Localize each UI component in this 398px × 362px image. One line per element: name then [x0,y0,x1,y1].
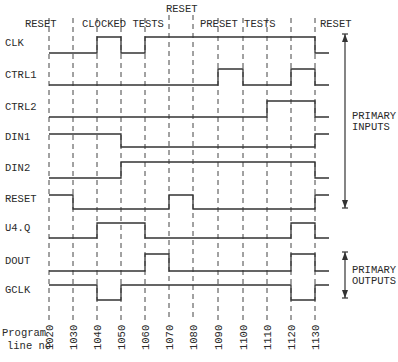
signal-label-gclk: GCLK [5,284,31,296]
waveform-din1 [49,134,329,147]
program-line-caption: Program [2,327,46,339]
program-line-number: 1110 [262,325,274,350]
signal-label-reset: RESET [5,193,37,205]
signal-label-ctrl1: CTRL1 [5,69,37,81]
waveform-ctrl1 [49,69,329,85]
waveform-reset [49,195,329,209]
arrow-up-icon [342,252,348,260]
program-line-number: 1130 [310,325,322,350]
signal-label-din1: DIN1 [5,131,30,143]
section-label: RESET [166,3,198,15]
signal-label-u4-q: U4.Q [5,222,30,234]
waveform-clk [49,37,329,53]
program-line-gridlines [49,15,315,320]
program-line-number: 1090 [213,325,225,350]
program-line-number: 1060 [140,325,152,350]
program-line-number: 1050 [116,325,128,350]
timing-diagram: RESETCLOCKED TESTSRESETPRESET TESTSRESET… [0,0,398,362]
signal-label-din2: DIN2 [5,162,30,174]
section-labels: RESETCLOCKED TESTSRESETPRESET TESTSRESET [25,3,352,30]
group-label: OUTPUTS [352,275,396,287]
section-label: CLOCKED TESTS [82,18,164,30]
arrow-up-icon [342,34,348,42]
program-line-number: 1100 [238,325,250,350]
waveform-gclk [49,285,329,300]
arrow-down-icon [342,200,348,208]
signal-labels: CLKCTRL1CTRL2DIN1DIN2RESETU4.QDOUTGCLK [5,37,37,296]
program-line-number: 1020 [44,325,56,350]
signal-label-dout: DOUT [5,255,30,267]
program-line-numbers: Program line no 102010301040105010601070… [2,325,322,352]
waveform-u4-q [49,223,329,238]
program-line-number: 1040 [92,325,104,350]
program-line-number: 1120 [286,325,298,350]
waveforms [49,37,329,300]
section-label: RESET [25,18,57,30]
section-label: RESET [320,18,352,30]
program-line-number: 1070 [164,325,176,350]
waveform-dout [49,254,329,271]
program-line-number: 1080 [188,325,200,350]
waveform-din2 [49,162,329,178]
group-label: INPUTS [352,121,390,133]
signal-label-ctrl2: CTRL2 [5,101,37,113]
signal-label-clk: CLK [5,37,25,49]
waveform-ctrl2 [49,101,329,117]
program-line-number: 1030 [68,325,80,350]
arrow-down-icon [342,290,348,298]
signal-group-brackets: PRIMARYINPUTSPRIMARYOUTPUTS [342,34,397,298]
section-label: PRESET TESTS [200,18,276,30]
